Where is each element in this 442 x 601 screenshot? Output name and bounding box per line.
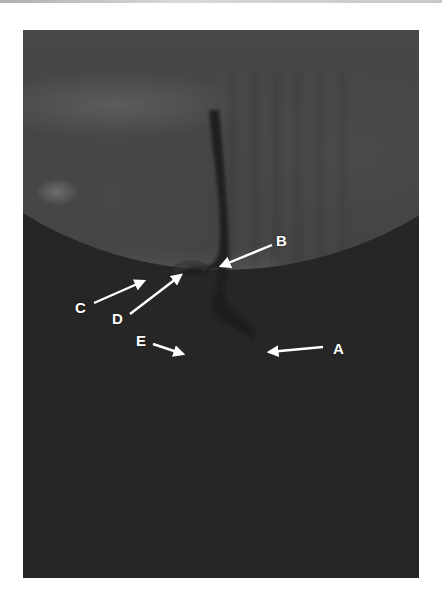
arrow-d — [130, 275, 181, 314]
arrow-a — [269, 347, 323, 352]
arrow-e — [153, 344, 183, 354]
label-b: B — [276, 232, 287, 249]
label-d: D — [112, 310, 123, 327]
xray-image: A B C D E — [23, 30, 419, 578]
label-e: E — [136, 332, 146, 349]
label-a: A — [333, 340, 344, 357]
label-c: C — [75, 299, 86, 316]
arrow-c — [94, 281, 144, 303]
page-edge-strip — [0, 0, 442, 3]
arrow-b — [221, 245, 272, 266]
